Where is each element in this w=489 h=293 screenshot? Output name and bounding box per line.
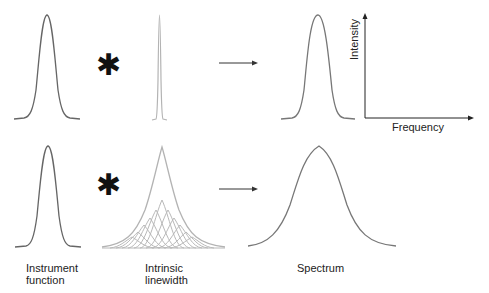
x-axis-label: Frequency bbox=[392, 121, 444, 133]
arrow-bottom bbox=[219, 187, 258, 192]
intrinsic-label-line2: linewidth bbox=[145, 274, 188, 286]
intrinsic-narrow-curve bbox=[152, 15, 167, 120]
instrument-curve-bottom bbox=[15, 146, 81, 247]
intrinsic-components bbox=[102, 200, 225, 248]
instrument-function-label: Instrument function bbox=[26, 262, 78, 286]
convolution-operator-top: ✱ bbox=[96, 50, 121, 80]
spectrum-curve-top bbox=[281, 15, 355, 119]
intrinsic-label-line1: Intrinsic bbox=[145, 262, 188, 274]
spectrum-curve-bottom bbox=[248, 146, 396, 246]
instrument-curve-top bbox=[14, 15, 80, 119]
intrinsic-linewidth-label: Intrinsic linewidth bbox=[145, 262, 188, 286]
instrument-label-line2: function bbox=[26, 274, 78, 286]
axes bbox=[363, 13, 475, 121]
spectrum-label: Spectrum bbox=[297, 262, 344, 274]
convolution-operator-bottom: ✱ bbox=[96, 170, 121, 200]
y-axis-label: Intensity bbox=[348, 19, 360, 60]
arrow-top bbox=[219, 61, 258, 66]
diagram-canvas bbox=[0, 0, 489, 293]
instrument-label-line1: Instrument bbox=[26, 262, 78, 274]
